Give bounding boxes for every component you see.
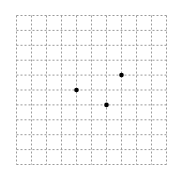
grid-point	[119, 73, 124, 78]
grid-point	[104, 103, 109, 108]
dot-grid-diagram	[0, 0, 180, 170]
grid-point	[74, 88, 79, 93]
grid-lines	[17, 16, 167, 165]
